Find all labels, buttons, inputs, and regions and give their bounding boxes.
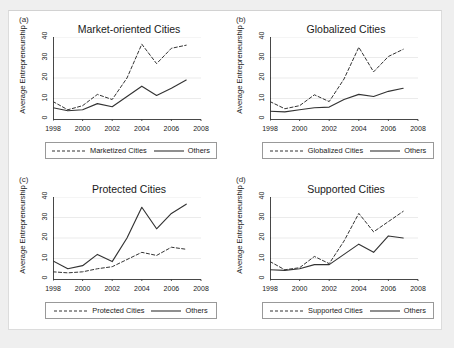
legend-label-d-0: Supported Cities [308,306,363,315]
dashed-line-swatch-icon [52,148,86,154]
legend-c: Protected Cities Others [45,302,217,319]
legend-key-solid-c: Others [151,306,207,315]
chart-panel-c: (c) Protected Cities Average Entrepreneu… [9,171,226,331]
y-tick-label: 10 [258,250,265,264]
legend-label-c-1: Others [185,306,207,315]
y-tick-label: 30 [41,209,48,223]
x-tick-label: 2008 [405,125,431,132]
y-axis-label-a: Average Entrepreneurship [18,15,27,125]
figure-root: (a) Market-oriented Cities Average Entre… [0,0,454,348]
y-axis-label-c: Average Entrepreneurship [18,175,27,285]
x-tick-label: 2008 [188,125,214,132]
y-tick-label: 0 [258,271,265,285]
chart-panel-d: (d) Supported Cities Average Entrepreneu… [226,171,443,331]
series-line-1 [270,236,403,270]
legend-key-solid-d: Others [370,306,426,315]
x-tick-label: 2002 [316,285,342,292]
x-tick-label: 2002 [316,125,342,132]
legend-label-b-1: Others [404,146,426,155]
x-tick-label: 2008 [188,285,214,292]
solid-line-swatch-icon [370,148,400,154]
plot-svg [270,197,420,281]
y-tick-label: 30 [41,49,48,63]
plot-svg [53,37,203,121]
y-tick-label: 20 [41,70,48,84]
legend-b: Globalized Cities Others [262,142,434,159]
y-tick-label: 0 [258,111,265,125]
y-axis-label-d: Average Entrepreneurship [235,175,244,285]
solid-line-swatch-icon [370,308,400,314]
series-line-0 [270,211,403,269]
dashed-line-swatch-icon [270,148,304,154]
legend-label-d-1: Others [404,306,426,315]
solid-line-swatch-icon [154,148,184,154]
x-tick-label: 2004 [346,125,372,132]
y-tick-label: 0 [41,111,48,125]
legend-key-dashed-a: Marketized Cities [52,146,147,155]
panel-title-c: Protected Cities [39,183,219,195]
x-tick-label: 1998 [257,125,283,132]
legend-key-dashed-b: Globalized Cities [270,146,363,155]
y-tick-label: 30 [258,49,265,63]
y-tick-label: 40 [258,29,265,43]
x-tick-label: 2006 [158,285,184,292]
y-tick-label: 40 [41,189,48,203]
plot-svg [270,37,420,121]
series-line-1 [53,80,186,111]
panel-title-b: Globalized Cities [256,23,436,35]
x-tick-label: 2006 [375,125,401,132]
legend-key-dashed-c: Protected Cities [54,306,144,315]
x-tick-label: 1998 [257,285,283,292]
x-tick-label: 2000 [287,125,313,132]
series-line-0 [53,247,186,273]
legend-key-dashed-d: Supported Cities [270,306,363,315]
legend-label-a-0: Marketized Cities [90,146,147,155]
legend-key-solid-b: Others [370,146,426,155]
plot-svg [53,197,203,281]
chart-panel-a: (a) Market-oriented Cities Average Entre… [9,11,226,171]
x-tick-label: 2002 [99,285,125,292]
plot-area-c [53,197,201,279]
y-tick-label: 20 [41,230,48,244]
legend-d: Supported Cities Others [262,302,434,319]
x-tick-label: 1998 [40,285,66,292]
y-tick-label: 30 [258,209,265,223]
legend-label-c-0: Protected Cities [92,306,144,315]
panel-title-d: Supported Cities [256,183,436,195]
series-line-1 [53,204,186,269]
y-tick-label: 0 [41,271,48,285]
y-tick-label: 20 [258,70,265,84]
panel-title-a: Market-oriented Cities [39,23,219,35]
y-tick-label: 40 [258,189,265,203]
x-tick-label: 1998 [40,125,66,132]
dashed-line-swatch-icon [270,308,304,314]
x-tick-label: 2004 [346,285,372,292]
y-tick-label: 40 [41,29,48,43]
x-tick-label: 2008 [405,285,431,292]
x-tick-label: 2000 [70,125,96,132]
y-tick-label: 10 [41,250,48,264]
legend-key-solid-a: Others [154,146,210,155]
y-tick-label: 20 [258,230,265,244]
solid-line-swatch-icon [151,308,181,314]
series-line-1 [270,88,403,112]
plot-area-a [53,37,201,119]
series-line-0 [53,44,186,110]
chart-panel-b: (b) Globalized Cities Average Entreprene… [226,11,443,171]
y-tick-label: 10 [258,90,265,104]
figure-canvas: (a) Market-oriented Cities Average Entre… [8,10,442,330]
plot-area-b [270,37,418,119]
legend-a: Marketized Cities Others [45,142,217,159]
x-tick-label: 2004 [129,285,155,292]
x-tick-label: 2002 [99,125,125,132]
x-tick-label: 2006 [375,285,401,292]
x-tick-label: 2000 [287,285,313,292]
legend-label-a-1: Others [188,146,210,155]
y-axis-label-b: Average Entrepreneurship [235,15,244,125]
x-tick-label: 2000 [70,285,96,292]
dashed-line-swatch-icon [54,308,88,314]
y-tick-label: 10 [41,90,48,104]
x-tick-label: 2006 [158,125,184,132]
legend-label-b-0: Globalized Cities [308,146,363,155]
plot-area-d [270,197,418,279]
